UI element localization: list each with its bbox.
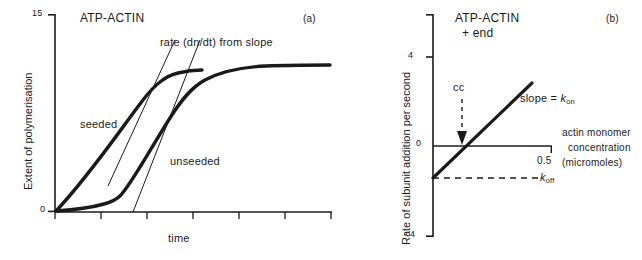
curve-label-seeded: seeded — [80, 118, 117, 130]
slope-annotation-text: slope = — [520, 92, 560, 104]
panel-a-x-axis-title: time — [168, 232, 190, 244]
panel-b-x-axis — [433, 146, 552, 153]
panel-a: 15 0 Extent of polymerisation time ATP-A… — [0, 0, 340, 260]
panel-b-title: ATP-ACTIN — [455, 12, 519, 25]
panel-a-id-label: (a) — [303, 13, 316, 24]
panel-b-x-caption-line1: actin monomer — [562, 127, 631, 138]
figure-root: 15 0 Extent of polymerisation time ATP-A… — [0, 0, 642, 260]
koff-annotation: koff — [540, 171, 555, 185]
panel-a-y-axis — [48, 14, 55, 212]
panel-b: 4 0 - 4 Rate of subunit addition per sec… — [340, 0, 642, 260]
slope-annotation: slope = kon — [520, 92, 575, 106]
curve-unseeded — [56, 65, 330, 211]
panel-b-ytick-0: 0 — [416, 139, 421, 149]
panel-b-x-caption-line2: concentration — [568, 142, 631, 153]
rate-line — [433, 83, 532, 178]
cc-arrow — [457, 99, 467, 145]
panel-b-ytick-4: 4 — [408, 51, 413, 61]
panel-a-title: ATP-ACTIN — [80, 12, 144, 25]
panel-a-x-axis — [55, 212, 332, 219]
panel-b-y-axis-title: Rate of subunit addition per second — [400, 72, 412, 245]
panel-a-y-axis-title: Extent of polymerisation — [22, 73, 34, 190]
koff-k-subscript: off — [546, 176, 555, 185]
slope-k-subscript: on — [566, 97, 575, 106]
panel-a-ytick-max: 15 — [32, 9, 42, 19]
panel-b-subtitle: + end — [462, 27, 493, 40]
panel-a-rate-annotation: rate (dn/dt) from slope — [160, 36, 273, 48]
cc-label: cc — [453, 81, 464, 93]
panel-b-y-axis — [426, 14, 433, 237]
panel-a-ytick-min: 0 — [40, 205, 45, 215]
panel-b-id-label: (b) — [606, 13, 619, 24]
curve-label-unseeded: unseeded — [170, 155, 220, 167]
panel-b-x-caption-line3: (micromoles) — [562, 157, 622, 168]
panel-b-xtick-value: 0.5 — [537, 155, 552, 166]
